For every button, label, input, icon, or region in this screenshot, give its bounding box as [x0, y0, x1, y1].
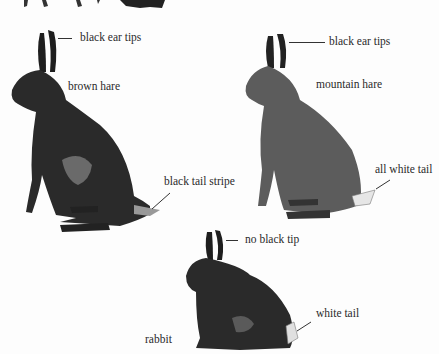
rabbit-tail-leader [0, 0, 439, 354]
